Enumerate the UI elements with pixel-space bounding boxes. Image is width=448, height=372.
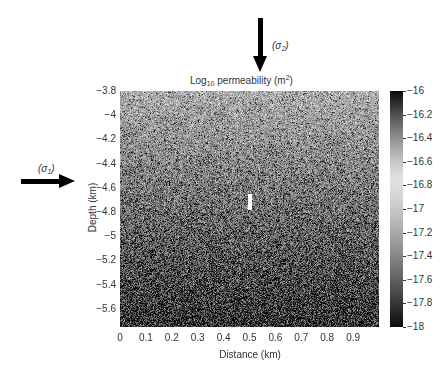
sigma1-arrow-head-icon <box>59 174 75 188</box>
colorbar-tick-label: −18 <box>407 322 424 332</box>
title-mid: permeability (m <box>214 75 285 86</box>
colorbar-tick-label: −17.8 <box>407 298 432 308</box>
y-tick-label: −4.8 <box>76 207 116 217</box>
paren: ) <box>285 40 288 51</box>
colorbar-tick-mark <box>403 303 406 304</box>
y-tick-label: −4 <box>76 110 116 120</box>
x-tick-label: 0.8 <box>315 333 339 343</box>
colorbar-tick-label: −17.2 <box>407 228 432 238</box>
y-tick-label: −5.6 <box>76 304 116 314</box>
chart-title: Log10 permeability (m2) <box>190 74 293 87</box>
x-tick-label: 0.7 <box>289 333 313 343</box>
x-tick-label: 0.1 <box>134 333 158 343</box>
y-tick-label: −4.6 <box>76 183 116 193</box>
colorbar-tick-label: −16.6 <box>407 157 432 167</box>
colorbar-tick-mark <box>403 209 406 210</box>
x-tick-label: 0.3 <box>186 333 210 343</box>
y-tick-label: −4.4 <box>76 159 116 169</box>
paren: ) <box>51 163 54 174</box>
colorbar <box>390 91 403 327</box>
title-base: Log <box>190 75 207 86</box>
colorbar-tick-label: −16 <box>407 86 424 96</box>
colorbar-tick-mark <box>403 327 406 328</box>
x-tick-label: 0.9 <box>341 333 365 343</box>
colorbar-tick-label: −16.8 <box>407 180 432 190</box>
colorbar-tick-label: −17 <box>407 204 424 214</box>
colorbar-tick-label: −16.2 <box>407 110 432 120</box>
colorbar-tick-label: −17.6 <box>407 275 432 285</box>
colorbar-gradient <box>390 91 403 327</box>
x-tick-label: 0 <box>108 333 132 343</box>
colorbar-tick-mark <box>403 256 406 257</box>
colorbar-tick-mark <box>403 233 406 234</box>
y-tick-label: −4.2 <box>76 134 116 144</box>
x-tick-label: 0.5 <box>238 333 262 343</box>
sigma2-label: (σ2) <box>272 40 289 52</box>
colorbar-tick-label: −17.4 <box>407 251 432 261</box>
colorbar-tick-mark <box>403 138 406 139</box>
sigma1-arrow-shaft <box>21 179 61 184</box>
colorbar-tick-mark <box>403 162 406 163</box>
y-tick-label: −5 <box>76 231 116 241</box>
colorbar-tick-label: −16.4 <box>407 133 432 143</box>
x-tick-label: 0.4 <box>212 333 236 343</box>
y-tick-label: −3.8 <box>76 86 116 96</box>
x-axis-label: Distance (km) <box>195 349 305 360</box>
sigma2-arrow-shaft <box>258 18 263 58</box>
colorbar-tick-mark <box>403 91 406 92</box>
sigma2-arrow-head-icon <box>253 56 267 72</box>
plot-area <box>120 91 379 327</box>
y-tick-label: −5.4 <box>76 280 116 290</box>
colorbar-tick-mark <box>403 185 406 186</box>
permeability-field <box>120 91 379 327</box>
x-tick-label: 0.6 <box>263 333 287 343</box>
title-end: ) <box>290 75 293 86</box>
x-tick-label: 0.2 <box>160 333 184 343</box>
colorbar-tick-mark <box>403 115 406 116</box>
sigma1-label: (σ1) <box>38 163 55 175</box>
y-tick-label: −5.2 <box>76 255 116 265</box>
colorbar-tick-mark <box>403 280 406 281</box>
